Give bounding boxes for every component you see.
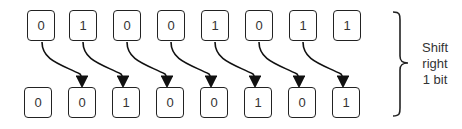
top-bit-4: 1 <box>201 10 229 41</box>
top-bit-2: 0 <box>113 10 141 41</box>
top-bit-5: 0 <box>245 10 273 41</box>
bottom-bit-5: 1 <box>244 87 272 118</box>
shift-label: Shift right 1 bit <box>415 40 455 88</box>
bottom-bit-3: 0 <box>156 87 184 118</box>
shift-label-line: Shift <box>415 40 455 56</box>
shift-arrow <box>171 42 211 85</box>
top-bit-1: 1 <box>69 10 97 41</box>
top-bit-7: 1 <box>333 10 361 41</box>
shift-label-line: right <box>415 56 455 72</box>
bottom-bit-1: 0 <box>68 87 96 118</box>
bottom-bit-4: 0 <box>200 87 228 118</box>
bottom-bit-6: 0 <box>288 87 316 118</box>
shift-arrow <box>259 42 299 85</box>
bottom-bit-2: 1 <box>112 87 140 118</box>
shift-arrow <box>215 42 255 85</box>
shift-arrow <box>42 42 82 85</box>
shift-arrow <box>303 42 343 85</box>
shift-label-line: 1 bit <box>415 72 455 88</box>
top-bit-6: 1 <box>289 10 317 41</box>
shift-arrow <box>127 42 167 85</box>
brace-icon <box>393 12 408 116</box>
bottom-bit-0: 0 <box>24 87 52 118</box>
bottom-bit-7: 1 <box>332 87 360 118</box>
top-bit-3: 0 <box>157 10 185 41</box>
shift-arrow <box>83 42 123 85</box>
top-bit-0: 0 <box>27 10 55 41</box>
